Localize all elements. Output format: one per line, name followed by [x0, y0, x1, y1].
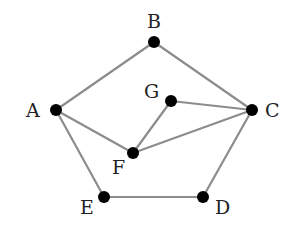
- node-label-b: B: [147, 10, 161, 32]
- edge-a-b: [56, 42, 154, 110]
- node-label-g: G: [144, 80, 159, 102]
- node-e: [98, 191, 110, 203]
- node-b: [148, 36, 160, 48]
- node-label-f: F: [112, 156, 125, 178]
- node-label-e: E: [80, 196, 94, 218]
- edge-f-c: [133, 110, 252, 153]
- node-g: [165, 95, 177, 107]
- node-label-d: D: [215, 196, 230, 218]
- node-c: [246, 104, 258, 116]
- node-a: [50, 104, 62, 116]
- edges-group: [56, 42, 252, 197]
- node-label-a: A: [25, 99, 40, 121]
- node-f: [127, 147, 139, 159]
- edge-d-c: [203, 110, 252, 197]
- graph-diagram: ABCDEFG: [0, 0, 295, 226]
- node-d: [197, 191, 209, 203]
- node-label-c: C: [265, 99, 280, 121]
